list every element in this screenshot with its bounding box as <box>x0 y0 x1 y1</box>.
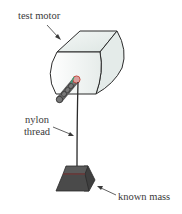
test-motor <box>50 31 124 94</box>
mass-pointer-arrow <box>97 186 116 195</box>
motor-pointer-arrow <box>47 25 61 40</box>
diagram-canvas <box>0 0 182 214</box>
thread-label-line2: thread <box>19 126 55 138</box>
known-mass <box>56 166 95 191</box>
thread-pointer-arrow <box>53 127 74 136</box>
mass-label: known mass <box>118 191 170 203</box>
thread-label-line1: nylon <box>19 114 55 126</box>
nylon-thread <box>77 82 78 166</box>
motor-label: test motor <box>18 10 60 22</box>
